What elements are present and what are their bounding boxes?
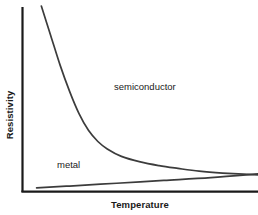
x-axis-label: Temperature xyxy=(0,199,258,210)
semiconductor-curve-label: semiconductor xyxy=(114,81,176,92)
chart-plot-area xyxy=(0,0,258,215)
y-axis-label: Resistivity xyxy=(4,91,15,140)
metal-curve xyxy=(37,174,258,188)
metal-curve-label: metal xyxy=(57,159,80,170)
resistivity-temperature-chart: Resistivity Temperature semiconductor me… xyxy=(0,0,258,215)
